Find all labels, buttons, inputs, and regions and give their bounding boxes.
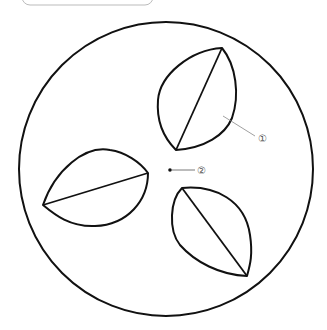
leaf-left — [43, 149, 148, 226]
leaf-top-right — [158, 48, 236, 150]
diagram-canvas: ① ② — [0, 0, 327, 330]
dish-circle — [19, 22, 313, 316]
center-point — [168, 168, 172, 172]
label-1: ① — [258, 133, 267, 144]
leaf-bottom-right — [172, 188, 251, 276]
top-frame — [22, 0, 153, 5]
label-2: ② — [197, 165, 206, 176]
